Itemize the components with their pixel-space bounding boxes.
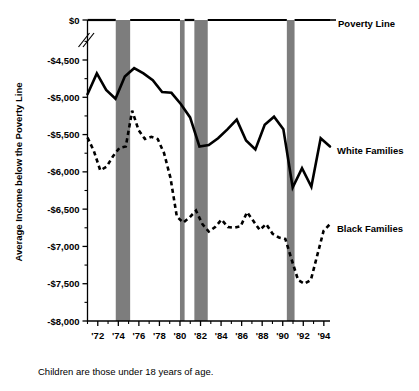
x-tick-label: '72 [91, 330, 104, 341]
y-axis-title-group: Average Income below the Poverty Line [13, 82, 24, 261]
x-tick-label: '74 [112, 330, 126, 341]
y-tick-label: -$7,500 [47, 278, 79, 289]
x-tick-label: '80 [174, 330, 187, 341]
x-tick-label: '78 [153, 330, 166, 341]
y-tick-label: $0 [69, 15, 80, 26]
chart-figure: $0-$4,500-$5,000-$5,500-$6,000-$6,500-$7… [0, 0, 419, 391]
x-tick-label: '92 [297, 330, 310, 341]
y-tick-label: -$6,000 [47, 166, 79, 177]
x-tick-label: '86 [235, 330, 248, 341]
x-tick-label: '90 [276, 330, 289, 341]
y-tick-label: -$8,000 [47, 316, 79, 327]
x-tick-label: '88 [256, 330, 269, 341]
x-axis-tick-labels: '72'74'76'78'80'82'84'86'88'90'92'94 [91, 330, 331, 341]
y-tick-label: -$5,000 [47, 92, 79, 103]
y-tick-label: -$4,500 [47, 55, 79, 66]
y-tick-label: -$7,000 [47, 241, 79, 252]
x-tick-label: '82 [194, 330, 207, 341]
recession-band-3 [194, 20, 207, 321]
chart-footnote: Children are those under 18 years of age… [38, 366, 213, 377]
poverty-line-label: Poverty Line [338, 18, 395, 29]
y-tick-label: -$6,500 [47, 204, 79, 215]
x-tick-label: '84 [215, 330, 229, 341]
recession-band-1 [116, 20, 130, 321]
recession-band-2 [180, 20, 185, 321]
y-tick-label: -$5,500 [47, 129, 79, 140]
y-axis-tick-labels: $0-$4,500-$5,000-$5,500-$6,000-$6,500-$7… [47, 15, 79, 327]
chart-canvas: $0-$4,500-$5,000-$5,500-$6,000-$6,500-$7… [0, 0, 419, 391]
recession-bands-group [116, 20, 295, 321]
y-axis-title: Average Income below the Poverty Line [13, 82, 24, 261]
white-families-label: White Families [337, 145, 404, 156]
x-tick-label: '94 [317, 330, 331, 341]
y-axis-break-icon [79, 33, 95, 47]
series-annotations-group: Poverty LineWhite FamiliesBlack Families [337, 18, 404, 234]
black-families-label: Black Families [337, 223, 403, 234]
x-tick-label: '76 [132, 330, 145, 341]
